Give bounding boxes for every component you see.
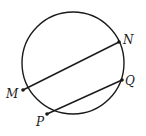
point-n	[117, 40, 121, 44]
point-m	[21, 88, 25, 92]
circle	[22, 12, 124, 114]
label-p: P	[35, 115, 45, 129]
chord-mn	[23, 42, 119, 90]
point-q	[120, 78, 124, 82]
label-m: M	[5, 87, 19, 101]
point-p	[45, 112, 49, 116]
circle-diagram: N Q M P	[0, 0, 146, 136]
label-n: N	[122, 33, 134, 47]
label-q: Q	[125, 74, 135, 88]
